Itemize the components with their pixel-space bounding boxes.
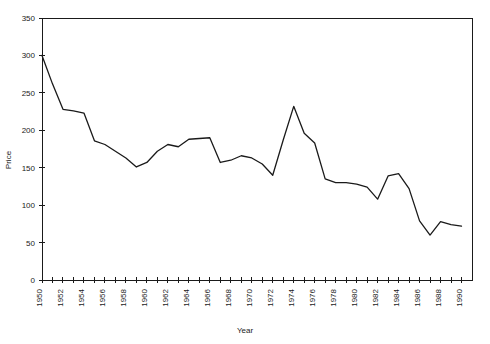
y-tick-label: 250 bbox=[22, 89, 36, 98]
chart-container: 050100150200250300350 195019521954195619… bbox=[0, 0, 490, 344]
y-tick-label: 200 bbox=[22, 126, 36, 135]
y-tick-label: 350 bbox=[22, 14, 36, 23]
x-tick-label: 1968 bbox=[224, 288, 233, 306]
plot-frame bbox=[42, 18, 472, 280]
y-axis-title: Price bbox=[4, 150, 13, 169]
x-tick-label: 1952 bbox=[56, 288, 65, 306]
x-tick-label: 1966 bbox=[203, 288, 212, 306]
y-tick-label: 150 bbox=[22, 164, 36, 173]
x-tick-label: 1954 bbox=[77, 288, 86, 306]
x-axis-tick-labels: 1950195219541956195819601962196419661968… bbox=[35, 288, 464, 306]
x-tick-label: 1974 bbox=[287, 288, 296, 306]
y-tick-label: 300 bbox=[22, 51, 36, 60]
y-tick-label: 0 bbox=[31, 276, 36, 285]
x-axis-title: Year bbox=[237, 326, 254, 335]
x-tick-label: 1984 bbox=[392, 288, 401, 306]
x-tick-label: 1978 bbox=[329, 288, 338, 306]
x-tick-label: 1962 bbox=[161, 288, 170, 306]
x-tick-label: 1956 bbox=[98, 288, 107, 306]
x-tick-label: 1970 bbox=[245, 288, 254, 306]
x-tick-label: 1964 bbox=[182, 288, 191, 306]
price-year-line-chart: 050100150200250300350 195019521954195619… bbox=[0, 0, 490, 344]
x-tick-label: 1950 bbox=[35, 288, 44, 306]
x-tick-label: 1960 bbox=[140, 288, 149, 306]
price-series-line bbox=[42, 55, 462, 235]
x-tick-label: 1986 bbox=[413, 288, 422, 306]
x-tick-label: 1988 bbox=[434, 288, 443, 306]
x-tick-label: 1990 bbox=[455, 288, 464, 306]
y-tick-label: 100 bbox=[22, 201, 36, 210]
x-tick-label: 1982 bbox=[371, 288, 380, 306]
x-tick-label: 1976 bbox=[308, 288, 317, 306]
x-tick-label: 1980 bbox=[350, 288, 359, 306]
x-tick-label: 1958 bbox=[119, 288, 128, 306]
y-axis-tick-labels: 050100150200250300350 bbox=[22, 14, 36, 285]
x-tick-label: 1972 bbox=[266, 288, 275, 306]
x-axis-ticks bbox=[42, 277, 462, 283]
y-tick-label: 50 bbox=[26, 239, 35, 248]
